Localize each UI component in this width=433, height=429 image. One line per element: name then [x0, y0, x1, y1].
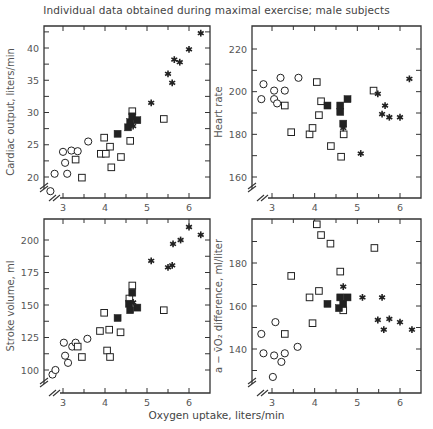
series-star — [130, 30, 204, 130]
y-tick-label: 25 — [27, 139, 39, 150]
data-point — [306, 131, 313, 138]
data-point — [386, 316, 392, 323]
data-point — [397, 114, 403, 121]
data-point — [269, 373, 276, 380]
y-axis-label: a − v̄O₂ difference, ml/liter — [213, 238, 224, 373]
data-point — [278, 358, 285, 365]
data-point — [344, 294, 351, 301]
data-point — [406, 75, 412, 82]
data-point — [104, 347, 111, 354]
data-point — [258, 96, 265, 103]
data-point — [114, 315, 121, 322]
data-point — [169, 79, 175, 86]
data-point — [108, 164, 115, 171]
data-point — [59, 148, 66, 155]
data-point — [97, 328, 104, 335]
data-point — [344, 96, 351, 103]
panel-top-right: 3456160180200220Heart rate — [213, 26, 421, 213]
x-axis-label: Oxygen uptake, liters/min — [0, 409, 433, 421]
data-point — [337, 108, 344, 115]
data-point — [358, 150, 364, 157]
data-point — [101, 310, 108, 317]
x-tick-label: 5 — [354, 202, 360, 213]
data-point — [271, 87, 278, 94]
data-point — [114, 130, 121, 137]
x-tick-label: 3 — [60, 397, 66, 408]
data-point — [186, 224, 192, 231]
data-point — [316, 288, 323, 295]
x-tick-label: 3 — [269, 397, 275, 408]
data-point — [337, 294, 344, 301]
x-tick-label: 4 — [312, 202, 318, 213]
data-point — [281, 87, 288, 94]
data-point — [324, 102, 331, 109]
x-tick-label: 4 — [102, 397, 108, 408]
data-point — [277, 74, 284, 81]
data-point — [282, 331, 289, 338]
data-point — [60, 339, 67, 346]
data-point — [198, 231, 204, 238]
data-point — [379, 111, 385, 118]
data-point — [127, 307, 134, 314]
y-tick-label: 180 — [229, 129, 247, 140]
data-point — [314, 79, 321, 86]
data-point — [282, 102, 289, 109]
data-point — [178, 237, 184, 244]
data-point — [64, 359, 71, 366]
data-point — [340, 283, 346, 290]
data-point — [386, 114, 392, 121]
data-point — [340, 131, 347, 138]
data-point — [74, 343, 81, 350]
y-tick-label: 140 — [229, 344, 247, 355]
x-tick-label: 4 — [102, 202, 108, 213]
data-point — [260, 81, 267, 88]
data-point — [117, 329, 124, 336]
data-point — [177, 59, 183, 66]
x-tick-label: 4 — [312, 397, 318, 408]
x-tick-label: 5 — [144, 202, 150, 213]
data-point — [288, 273, 295, 280]
data-point — [198, 30, 204, 37]
data-point — [186, 46, 192, 53]
data-point — [295, 74, 302, 81]
data-point — [134, 117, 141, 124]
y-tick-label: 125 — [21, 332, 39, 343]
series-star — [130, 224, 204, 306]
data-point — [84, 335, 91, 342]
scatter-figure: 34562025303540Cardiac output, liters/min… — [0, 0, 433, 429]
x-tick-label: 3 — [269, 202, 275, 213]
x-tick-label: 6 — [186, 202, 192, 213]
data-point — [165, 70, 171, 77]
y-axis-label: Heart rate — [213, 86, 224, 137]
data-point — [337, 268, 344, 275]
data-point — [129, 289, 136, 296]
data-point — [79, 174, 86, 181]
data-point — [127, 138, 134, 145]
data-point — [318, 98, 325, 105]
data-point — [288, 129, 295, 136]
x-tick-label: 5 — [144, 397, 150, 408]
data-point — [337, 102, 344, 109]
data-point — [381, 326, 387, 333]
y-tick-label: 150 — [21, 300, 39, 311]
data-point — [258, 330, 265, 337]
data-point — [106, 326, 113, 333]
y-tick-label: 100 — [21, 365, 39, 376]
y-tick-label: 200 — [229, 86, 247, 97]
data-point — [281, 350, 288, 357]
data-point — [309, 320, 316, 327]
data-point — [134, 304, 141, 311]
x-tick-label: 5 — [354, 397, 360, 408]
data-point — [340, 300, 347, 307]
data-point — [52, 366, 59, 373]
data-point — [129, 282, 136, 289]
y-tick-label: 200 — [21, 235, 39, 246]
data-point — [107, 354, 114, 361]
series-open-circle — [258, 319, 301, 381]
data-point — [316, 112, 323, 119]
panel-bottom-left: 3456100125150175200Stroke volume, ml — [5, 219, 210, 408]
y-tick-label: 20 — [27, 172, 39, 183]
data-point — [101, 134, 108, 141]
data-point — [314, 221, 321, 228]
data-point — [47, 188, 54, 195]
